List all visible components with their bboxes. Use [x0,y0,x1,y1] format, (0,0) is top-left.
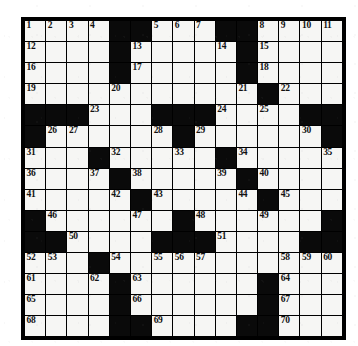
crossword-cell[interactable]: 46 [46,210,67,231]
crossword-cell[interactable]: 64 [279,274,300,295]
crossword-cell[interactable]: 44 [236,189,257,210]
crossword-cell[interactable] [279,105,300,126]
crossword-cell[interactable] [109,231,130,252]
crossword-cell[interactable]: 19 [25,84,46,105]
crossword-cell[interactable] [279,126,300,147]
crossword-cell[interactable]: 41 [25,189,46,210]
crossword-cell[interactable]: 70 [279,316,300,337]
crossword-cell[interactable] [152,168,173,189]
crossword-cell[interactable] [109,210,130,231]
crossword-cell[interactable] [152,274,173,295]
crossword-cell[interactable] [173,63,194,84]
crossword-cell[interactable]: 29 [194,126,215,147]
crossword-cell[interactable] [300,295,321,316]
crossword-cell[interactable]: 59 [300,253,321,274]
crossword-cell[interactable] [279,63,300,84]
crossword-cell[interactable] [215,295,236,316]
crossword-cell[interactable]: 5 [152,21,173,42]
crossword-cell[interactable]: 11 [321,21,342,42]
crossword-cell[interactable] [236,295,257,316]
crossword-cell[interactable] [88,63,109,84]
crossword-cell[interactable]: 12 [25,42,46,63]
crossword-cell[interactable] [67,168,88,189]
crossword-cell[interactable]: 38 [130,168,151,189]
crossword-cell[interactable] [46,63,67,84]
crossword-cell[interactable] [321,42,342,63]
crossword-cell[interactable]: 36 [25,168,46,189]
crossword-cell[interactable] [67,274,88,295]
crossword-cell[interactable]: 2 [46,21,67,42]
crossword-cell[interactable]: 31 [25,147,46,168]
crossword-cell[interactable] [258,253,279,274]
crossword-cell[interactable] [88,84,109,105]
crossword-cell[interactable] [321,63,342,84]
crossword-cell[interactable] [130,253,151,274]
crossword-cell[interactable] [194,168,215,189]
crossword-cell[interactable] [279,210,300,231]
crossword-cell[interactable] [88,295,109,316]
crossword-cell[interactable] [88,42,109,63]
crossword-cell[interactable] [215,316,236,337]
crossword-cell[interactable]: 51 [215,231,236,252]
crossword-cell[interactable] [130,84,151,105]
crossword-cell[interactable]: 49 [258,210,279,231]
crossword-cell[interactable] [152,84,173,105]
crossword-cell[interactable]: 47 [130,210,151,231]
crossword-cell[interactable] [67,253,88,274]
crossword-cell[interactable]: 68 [25,316,46,337]
crossword-cell[interactable]: 57 [194,253,215,274]
crossword-cell[interactable] [321,168,342,189]
crossword-cell[interactable]: 63 [130,274,151,295]
crossword-cell[interactable]: 3 [67,21,88,42]
crossword-cell[interactable] [46,168,67,189]
crossword-cell[interactable] [321,274,342,295]
crossword-cell[interactable]: 53 [46,253,67,274]
crossword-cell[interactable] [194,147,215,168]
crossword-cell[interactable]: 6 [173,21,194,42]
crossword-cell[interactable] [300,168,321,189]
crossword-cell[interactable] [46,295,67,316]
crossword-cell[interactable]: 15 [258,42,279,63]
crossword-cell[interactable] [46,274,67,295]
crossword-cell[interactable] [215,126,236,147]
crossword-cell[interactable]: 43 [152,189,173,210]
crossword-cell[interactable] [67,63,88,84]
crossword-cell[interactable]: 55 [152,253,173,274]
crossword-cell[interactable] [300,189,321,210]
crossword-cell[interactable] [46,316,67,337]
crossword-cell[interactable] [300,274,321,295]
crossword-cell[interactable] [236,210,257,231]
crossword-cell[interactable] [258,147,279,168]
crossword-cell[interactable]: 34 [236,147,257,168]
crossword-cell[interactable] [194,316,215,337]
crossword-cell[interactable] [215,63,236,84]
crossword-cell[interactable] [300,210,321,231]
crossword-cell[interactable]: 28 [152,126,173,147]
crossword-cell[interactable] [279,42,300,63]
crossword-cell[interactable]: 54 [109,253,130,274]
crossword-cell[interactable] [279,168,300,189]
crossword-cell[interactable]: 27 [67,126,88,147]
crossword-cell[interactable]: 4 [88,21,109,42]
crossword-cell[interactable]: 50 [67,231,88,252]
crossword-cell[interactable] [152,63,173,84]
crossword-cell[interactable] [321,189,342,210]
crossword-cell[interactable]: 42 [109,189,130,210]
crossword-cell[interactable]: 8 [258,21,279,42]
crossword-cell[interactable] [67,84,88,105]
crossword-cell[interactable] [321,316,342,337]
crossword-cell[interactable] [300,42,321,63]
crossword-cell[interactable] [46,42,67,63]
crossword-cell[interactable] [279,147,300,168]
crossword-cell[interactable] [152,210,173,231]
crossword-cell[interactable]: 39 [215,168,236,189]
crossword-cell[interactable] [215,210,236,231]
crossword-cell[interactable] [88,316,109,337]
crossword-cell[interactable] [88,210,109,231]
crossword-cell[interactable] [88,126,109,147]
crossword-cell[interactable] [130,126,151,147]
crossword-cell[interactable] [321,84,342,105]
crossword-cell[interactable] [173,295,194,316]
crossword-cell[interactable] [258,126,279,147]
crossword-cell[interactable] [215,274,236,295]
